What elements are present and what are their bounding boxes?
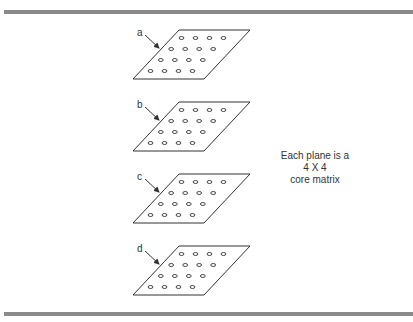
core-icon: [158, 59, 163, 62]
core-icon: [176, 286, 181, 289]
core-icon: [172, 131, 177, 134]
core-icon: [176, 70, 181, 73]
core-icon: [179, 253, 184, 256]
plane-d: d: [133, 243, 250, 295]
core-icon: [158, 203, 163, 206]
core-icon: [193, 181, 198, 184]
core-icon: [207, 109, 212, 112]
plane-label: c: [137, 171, 142, 182]
plane-label: d: [137, 243, 143, 254]
core-icon: [158, 131, 163, 134]
core-icon: [183, 192, 188, 195]
core-icon: [183, 120, 188, 123]
core-icon: [169, 120, 174, 123]
core-icon: [172, 275, 177, 278]
core-icon: [207, 37, 212, 40]
core-icon: [186, 131, 191, 134]
core-icon: [200, 131, 205, 134]
core-icon: [169, 192, 174, 195]
core-icon: [162, 214, 167, 217]
plane-b: b: [133, 99, 250, 151]
caption: Each plane is a 4 X 4 core matrix: [270, 150, 360, 186]
plane-label: a: [137, 27, 143, 38]
core-icon: [190, 142, 195, 145]
core-icon: [190, 70, 195, 73]
core-icon: [211, 264, 216, 267]
caption-line-2: 4 X 4: [270, 162, 360, 174]
arrow-icon: [145, 107, 159, 120]
caption-line-1: Each plane is a: [270, 150, 360, 162]
core-icon: [221, 253, 226, 256]
core-icon: [176, 214, 181, 217]
core-icon: [158, 275, 163, 278]
core-icon: [200, 275, 205, 278]
core-icon: [169, 264, 174, 267]
bottom-rule: [4, 312, 413, 316]
core-icon: [186, 275, 191, 278]
core-icon: [193, 109, 198, 112]
core-icon: [207, 253, 212, 256]
core-icon: [183, 48, 188, 51]
core-icon: [179, 181, 184, 184]
core-icon: [186, 59, 191, 62]
core-icon: [197, 120, 202, 123]
core-icon: [148, 286, 153, 289]
core-icon: [190, 286, 195, 289]
core-icon: [207, 181, 212, 184]
core-icon: [221, 37, 226, 40]
core-icon: [169, 48, 174, 51]
core-icon: [197, 264, 202, 267]
core-icon: [179, 109, 184, 112]
core-icon: [197, 48, 202, 51]
core-icon: [148, 142, 153, 145]
core-icon: [162, 70, 167, 73]
core-icon: [172, 203, 177, 206]
core-icon: [221, 109, 226, 112]
core-icon: [193, 253, 198, 256]
core-icon: [211, 48, 216, 51]
arrow-icon: [145, 251, 159, 264]
plane-label: b: [137, 99, 143, 110]
core-icon: [162, 286, 167, 289]
plane-c: c: [133, 171, 250, 223]
core-icon: [211, 192, 216, 195]
core-icon: [148, 70, 153, 73]
core-icon: [179, 37, 184, 40]
core-icon: [211, 120, 216, 123]
core-icon: [148, 214, 153, 217]
arrow-icon: [145, 179, 159, 192]
core-icon: [183, 264, 188, 267]
core-icon: [172, 59, 177, 62]
core-icon: [200, 59, 205, 62]
core-icon: [186, 203, 191, 206]
core-icon: [176, 142, 181, 145]
core-icon: [200, 203, 205, 206]
plane-a: a: [133, 27, 250, 79]
core-icon: [197, 192, 202, 195]
arrow-icon: [145, 35, 159, 48]
core-icon: [162, 142, 167, 145]
core-icon: [221, 181, 226, 184]
core-icon: [193, 37, 198, 40]
core-icon: [190, 214, 195, 217]
caption-line-3: core matrix: [270, 174, 360, 186]
